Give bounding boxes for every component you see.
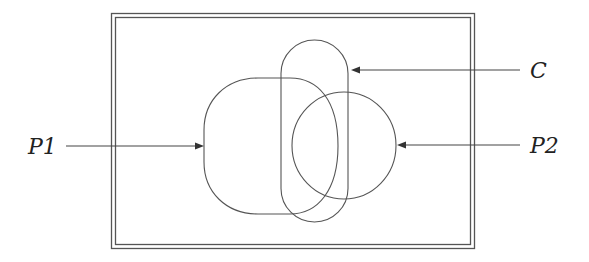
arrow-p1-head-icon: [195, 143, 204, 150]
arrow-c: [351, 67, 520, 74]
label-c: C: [530, 58, 547, 83]
arrow-p2-head-icon: [397, 142, 406, 149]
arrow-p2: [397, 142, 520, 149]
universe-frame: [112, 14, 475, 249]
diagram-canvas: P1 C P2: [0, 0, 589, 262]
label-p1: P1: [27, 134, 57, 159]
region-c: [281, 40, 348, 222]
label-p2: P2: [529, 133, 559, 158]
frame-inner-border: [116, 18, 471, 245]
frame-outer-border: [112, 14, 475, 249]
arrow-c-head-icon: [351, 67, 360, 74]
region-p2: [292, 92, 396, 199]
arrow-p1: [66, 143, 204, 150]
region-p1: [204, 78, 338, 214]
